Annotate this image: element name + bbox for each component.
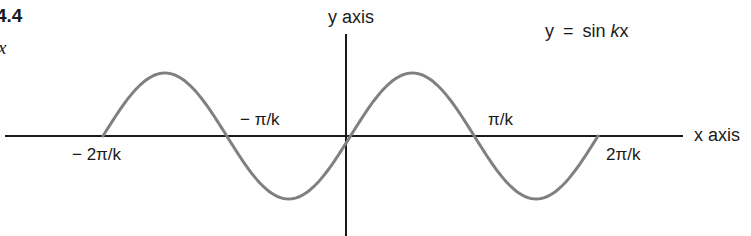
tick-label-neg-pi-k: − π/k bbox=[240, 111, 280, 128]
y-axis-label: y axis bbox=[328, 8, 374, 26]
equation-equals: = bbox=[563, 21, 574, 41]
figure-sub-label: x bbox=[0, 37, 6, 59]
tick-label-neg-2pi-k: − 2π/k bbox=[72, 146, 121, 163]
tick-label-pos-2pi-k: 2π/k bbox=[606, 146, 640, 163]
equation-label: y = sin kx bbox=[545, 22, 629, 40]
figure-number: 4.4 bbox=[0, 5, 22, 27]
equation-x: x bbox=[620, 21, 629, 41]
equation-k: k bbox=[611, 21, 620, 41]
x-axis-label: x axis bbox=[694, 126, 740, 144]
sine-diagram bbox=[0, 0, 751, 236]
equation-fn: sin bbox=[583, 21, 606, 41]
tick-label-pi-k: π/k bbox=[488, 111, 513, 128]
equation-lhs: y bbox=[545, 21, 554, 41]
